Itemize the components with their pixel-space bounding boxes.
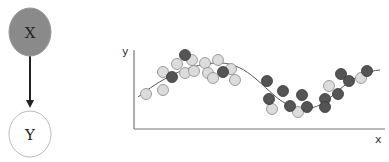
light-data-point xyxy=(208,73,219,84)
dark-data-point xyxy=(297,90,308,101)
dark-data-point xyxy=(278,86,289,97)
y-axis-label: y xyxy=(122,45,129,58)
dark-data-point xyxy=(344,76,355,87)
light-data-point xyxy=(324,81,335,92)
light-data-point xyxy=(158,85,169,96)
dark-data-point xyxy=(302,102,313,113)
light-data-point xyxy=(172,59,183,70)
dark-data-point xyxy=(362,66,373,77)
light-data-point xyxy=(200,58,211,69)
node-x-label: X xyxy=(25,24,36,42)
node-y-label: Y xyxy=(24,126,36,144)
light-data-point xyxy=(267,104,278,115)
node-x: X xyxy=(9,8,51,56)
light-data-point xyxy=(213,55,224,66)
figure-canvas: X Y y x xyxy=(0,0,389,162)
scatter-plot: y x xyxy=(122,45,385,146)
light-data-point xyxy=(230,75,241,86)
dark-data-point xyxy=(167,72,178,83)
dark-data-point xyxy=(262,76,273,87)
dark-data-point xyxy=(264,94,275,105)
node-y: Y xyxy=(9,111,51,157)
light-points xyxy=(141,55,367,118)
graphical-model: X Y xyxy=(9,8,51,157)
dark-data-point xyxy=(285,101,296,112)
dark-data-point xyxy=(218,67,229,78)
light-data-point xyxy=(141,89,152,100)
dark-data-point xyxy=(180,50,191,61)
dark-data-point xyxy=(320,102,331,113)
dark-data-point xyxy=(333,89,344,100)
light-data-point xyxy=(189,66,200,77)
x-axis-label: x xyxy=(375,133,382,146)
